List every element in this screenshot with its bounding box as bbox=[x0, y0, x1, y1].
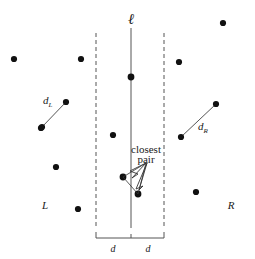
point-left-pair-b bbox=[39, 124, 45, 130]
closest-pair-diagram: ℓ L R dL dR closest pair d d bbox=[0, 0, 255, 259]
point-right-1 bbox=[220, 20, 226, 26]
strip-width-left-label: d bbox=[111, 243, 117, 254]
strip-width-right-label: d bbox=[146, 243, 152, 254]
point-left-pair-a bbox=[63, 99, 69, 105]
right-min-distance-label: dR bbox=[198, 120, 209, 135]
point-right-2 bbox=[176, 59, 182, 65]
left-min-distance-label: dL bbox=[43, 94, 53, 109]
right-region-label: R bbox=[227, 199, 235, 211]
right-min-distance-subscript: R bbox=[203, 127, 209, 135]
point-right-pair-a bbox=[213, 101, 219, 107]
point-strip-left bbox=[110, 132, 116, 138]
point-left-4 bbox=[53, 164, 59, 170]
left-min-distance-subscript: L bbox=[48, 101, 53, 109]
left-region-label: L bbox=[41, 199, 48, 211]
diagram-canvas: ℓ L R dL dR closest pair d d bbox=[0, 0, 255, 259]
point-left-1 bbox=[11, 56, 17, 62]
point-right-3 bbox=[193, 189, 199, 195]
point-left-5 bbox=[75, 206, 81, 212]
point-right-pair-b bbox=[178, 134, 184, 140]
dividing-line-label: ℓ bbox=[128, 11, 134, 27]
point-left-2 bbox=[78, 56, 84, 62]
closest-pair-label-line2: pair bbox=[137, 153, 154, 165]
point-strip-on-line bbox=[128, 74, 135, 81]
